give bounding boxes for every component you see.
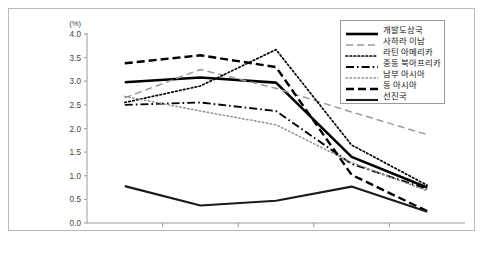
legend-line-swatch-icon (345, 58, 379, 68)
legend-line-swatch-icon (345, 91, 379, 101)
legend-item[interactable]: 중동 북아프리카 (345, 57, 440, 68)
y-tick-label: 2.0 (70, 125, 82, 134)
legend-item-label: 중동 북아프리카 (383, 58, 441, 68)
legend-item[interactable]: 라틴 아메리카 (345, 46, 440, 57)
x-tick-label: 1987-2007 (181, 230, 220, 232)
y-tick-label: 1.0 (70, 172, 82, 181)
x-axis: 1961-20071987-20071997-20072007-20302030… (87, 223, 465, 232)
legend-item-label: 개발도상국 (383, 25, 423, 35)
legend-item-label: 라틴 아메리카 (383, 47, 433, 57)
y-unit-label: (%) (69, 19, 81, 28)
y-tick-label: 0.0 (70, 219, 82, 228)
y-tick-label: 1.5 (70, 148, 82, 157)
legend-line-swatch-icon (345, 36, 379, 46)
y-tick-label: 4.0 (70, 30, 82, 39)
x-tick-label: 1997-2007 (257, 230, 296, 232)
y-tick-label: 3.5 (70, 54, 82, 63)
x-tick-label: 2030-2050 (408, 230, 447, 232)
legend-item[interactable]: 동 아시아 (345, 79, 440, 90)
legend-item[interactable]: 선진국 (345, 90, 440, 101)
legend-item[interactable]: 사하라 이남 (345, 35, 440, 46)
legend-item[interactable]: 남부 아시아 (345, 68, 440, 79)
legend-item-label: 사하라 이남 (383, 36, 425, 46)
legend-line-swatch-icon (345, 69, 379, 79)
x-tick-label: 1961-2007 (106, 230, 145, 232)
y-tick-label: 3.0 (70, 77, 82, 86)
legend-item-label: 선진국 (383, 91, 407, 101)
series-line (125, 103, 427, 189)
y-axis-unit: (%) (69, 19, 81, 28)
y-tick-label: 2.5 (70, 101, 82, 110)
y-tick-label: 0.5 (70, 195, 82, 204)
legend-item-label: 남부 아시아 (383, 69, 425, 79)
legend-line-swatch-icon (345, 47, 379, 57)
legend-line-swatch-icon (345, 80, 379, 90)
x-tick-label: 2007-2030 (332, 230, 371, 232)
legend-item-label: 동 아시아 (383, 80, 417, 90)
y-axis: 0.00.51.01.52.02.53.03.54.0 (70, 30, 87, 228)
figure-frame: 0.00.51.01.52.02.53.03.54.0 1961-2007198… (8, 8, 475, 231)
legend-item[interactable]: 개발도상국 (345, 24, 440, 35)
legend-line-swatch-icon (345, 25, 379, 35)
chart-legend: 개발도상국사하라 이남라틴 아메리카중동 북아프리카남부 아시아동 아시아선진국 (340, 20, 445, 104)
